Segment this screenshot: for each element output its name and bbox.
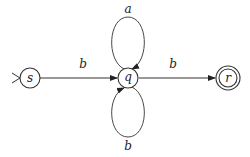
state-q: q <box>118 68 138 88</box>
edge-label-s-q: b <box>79 57 87 71</box>
edge-label-q-loop-top: a <box>124 2 131 16</box>
automaton-diagram: b a b b s q r <box>0 0 250 157</box>
state-s: s <box>20 68 40 88</box>
start-marker <box>12 73 20 83</box>
state-label-s: s <box>27 71 33 85</box>
edge-s-to-q: b <box>40 57 117 78</box>
edge-q-to-r: b <box>139 57 215 78</box>
edge-q-loop-bottom: b <box>112 87 145 153</box>
edge-label-q-r: b <box>169 57 177 71</box>
edge-label-q-loop-bottom: b <box>124 139 132 153</box>
state-r-accepting: r <box>216 66 240 90</box>
edge-q-loop-top: a <box>112 2 145 69</box>
state-label-q: q <box>124 70 132 84</box>
